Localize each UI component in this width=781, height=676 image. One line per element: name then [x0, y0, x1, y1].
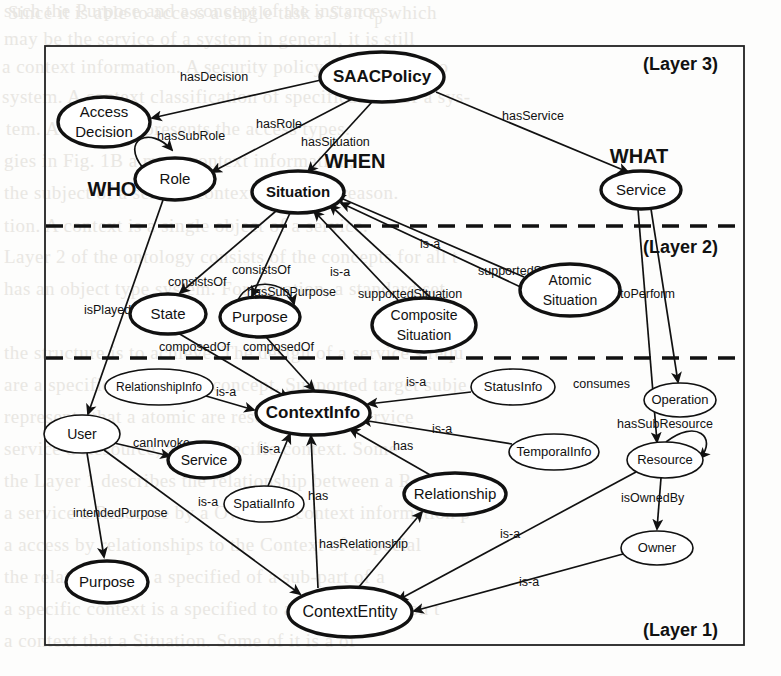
node-service-layer3[interactable]: Service — [601, 171, 681, 209]
node-saacpolicy-label: SAACPolicy — [333, 67, 432, 86]
node-accessdecision-label-line2: Decision — [75, 123, 133, 140]
node-compositesituation-label-line2: Situation — [397, 327, 451, 343]
node-spatialinfo[interactable]: SpatialInfo — [224, 486, 304, 522]
node-service-layer1[interactable]: Service — [168, 442, 240, 478]
edge-label-consistsOf-state: consistsOf — [168, 275, 227, 289]
node-user-label: User — [67, 426, 97, 442]
edge-label-toPerform: toPerform — [620, 287, 675, 301]
node-contextentity[interactable]: ContextEntity — [288, 587, 412, 637]
node-purpose-layer1[interactable]: Purpose — [66, 561, 148, 603]
edge-label-hasService: hasService — [502, 109, 564, 123]
axis-label-who: WHO — [88, 178, 137, 200]
edge-label-is-a-statusinfo: is-a — [406, 375, 426, 389]
node-state[interactable]: State — [130, 294, 206, 334]
edge-label-is-a-spatialinfo: is-a — [260, 442, 280, 456]
edge-label-consumes: consumes — [573, 377, 630, 391]
edge-label-intendedPurpose: intendedPurpose — [73, 506, 168, 520]
node-operation-label: Operation — [651, 392, 708, 407]
node-compositesituation-label-line1: Composite — [391, 307, 458, 323]
edge-label-composedOf-purpose: composedOf — [243, 340, 314, 354]
edge-label-hasRelationship: hasRelationship — [319, 537, 408, 551]
node-role[interactable]: Role — [135, 158, 215, 200]
edge-label-is-a-atomic: is-a — [420, 237, 440, 251]
layer-label-3: (Layer 3) — [643, 54, 718, 74]
node-temporalinfo[interactable]: TemporalInfo — [509, 434, 599, 470]
node-contextentity-label: ContextEntity — [302, 603, 397, 620]
node-resource-label: Resource — [637, 452, 693, 467]
node-accessdecision-label-line1: Access — [80, 103, 128, 120]
node-relationship[interactable]: Relationship — [404, 473, 506, 515]
node-temporalinfo-label: TemporalInfo — [516, 444, 591, 459]
node-role-label: Role — [160, 170, 191, 187]
edge-label-hasSubResource: hasSubResource — [617, 417, 713, 431]
ontology-diagram: hasDecision hasRole hasSituation hasServ… — [0, 0, 781, 676]
node-situation-label: Situation — [266, 183, 330, 200]
edge-label-hasSituation: hasSituation — [301, 135, 370, 149]
node-owner-label: Owner — [638, 540, 677, 555]
edge-label-has-relationship: has — [393, 439, 413, 453]
layer-label-1: (Layer 1) — [643, 620, 718, 640]
node-saacpolicy[interactable]: SAACPolicy — [320, 52, 444, 102]
node-spatialinfo-label: SpatialInfo — [233, 496, 294, 511]
node-contextinfo-label: ContextInfo — [266, 403, 360, 422]
edge-label-is-a-relationshipinfo: is-a — [216, 385, 236, 399]
axis-label-what: WHAT — [610, 145, 669, 167]
edge-label-composedOf-state: composedOf — [159, 340, 230, 354]
node-atomicsituation[interactable]: Atomic Situation — [520, 264, 620, 316]
figure-canvas: Since it is able to access a single task… — [0, 0, 781, 676]
node-operation[interactable]: Operation — [644, 383, 716, 417]
edge-label-is-a-user: is-a — [198, 495, 218, 509]
node-accessdecision[interactable]: Access Decision — [58, 97, 150, 147]
node-owner[interactable]: Owner — [621, 531, 693, 565]
node-relationshipinfo[interactable]: RelationshipInfo — [105, 369, 213, 405]
edge-label-hasDecision: hasDecision — [180, 70, 248, 84]
layer-label-2: (Layer 2) — [643, 237, 718, 257]
edge-label-consistsOf-purpose: consistsOf — [232, 263, 291, 277]
edge-label-has-contextentity: has — [308, 489, 328, 503]
edge-hasService — [436, 92, 628, 172]
node-situation[interactable]: Situation — [252, 171, 344, 213]
axis-label-when: WHEN — [324, 150, 385, 172]
node-relationship-label: Relationship — [414, 485, 497, 502]
node-relationshipinfo-label: RelationshipInfo — [116, 380, 202, 394]
node-resource[interactable]: Resource — [627, 442, 703, 478]
node-service-layer3-label: Service — [616, 181, 666, 198]
edge-supportedSituation-composite — [330, 205, 430, 297]
edge-is-a-statusinfo — [368, 392, 471, 404]
node-statusinfo-label: StatusInfo — [484, 379, 543, 394]
node-atomicsituation-label-line2: Situation — [543, 292, 597, 308]
edge-has-contextentity — [311, 436, 318, 588]
edge-label-hasRole: hasRole — [256, 117, 302, 131]
node-service-layer1-label: Service — [181, 452, 228, 468]
edge-label-is-a-temporalinfo: is-a — [432, 422, 452, 436]
edge-label-is-a-composite: is-a — [330, 265, 350, 279]
edge-hasDecision — [152, 80, 321, 118]
node-statusinfo[interactable]: StatusInfo — [471, 369, 555, 405]
node-user[interactable]: User — [44, 415, 120, 453]
node-purpose-layer2[interactable]: Purpose — [220, 297, 300, 337]
edge-label-hasSubRole: hasSubRole — [157, 129, 225, 143]
edge-label-is-a-resource: is-a — [500, 527, 520, 541]
node-purpose-layer1-label: Purpose — [79, 573, 135, 590]
node-contextinfo[interactable]: ContextInfo — [256, 391, 370, 435]
node-state-label: State — [150, 305, 185, 322]
edge-intendedPurpose — [87, 453, 104, 557]
node-compositesituation[interactable]: Composite Situation — [372, 298, 476, 352]
edge-has-relationship — [350, 429, 432, 476]
edge-label-isOwnedBy: isOwnedBy — [621, 491, 685, 505]
edge-label-is-a-owner: is-a — [519, 575, 539, 589]
node-atomicsituation-label-line1: Atomic — [549, 272, 592, 288]
node-purpose-layer2-label: Purpose — [232, 308, 288, 325]
